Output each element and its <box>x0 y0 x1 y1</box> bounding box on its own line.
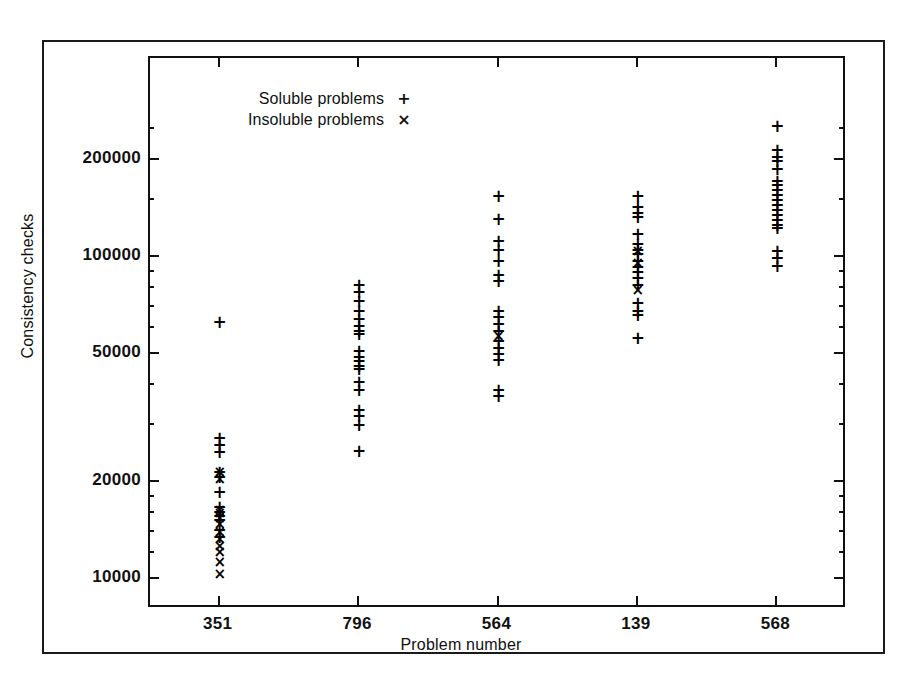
y-minor-tick-right <box>839 495 845 497</box>
data-point-soluble: + <box>352 382 366 399</box>
y-tick-label-50000: 50000 <box>92 342 141 362</box>
y-minor-tick <box>148 127 154 129</box>
data-point-soluble: + <box>491 211 505 228</box>
plot-surface: ++++++++++++++++++++++++++++++++++++++++… <box>150 58 843 605</box>
x-tick-796 <box>357 596 359 607</box>
y-tick-right-200000 <box>834 158 845 160</box>
data-point-soluble: + <box>352 442 366 459</box>
data-point-soluble: + <box>770 257 784 274</box>
data-point-insoluble: × <box>632 255 645 270</box>
y-minor-tick-right <box>839 270 845 272</box>
data-point-soluble: + <box>491 187 505 204</box>
y-tick-right-10000 <box>834 577 845 579</box>
data-point-insoluble: × <box>632 282 645 297</box>
y-minor-tick-right <box>839 511 845 513</box>
y-axis-title: Consistency checks <box>19 136 37 436</box>
x-tick-label-564: 564 <box>482 614 511 634</box>
x-tick-label-351: 351 <box>203 614 232 634</box>
y-minor-tick-right <box>839 326 845 328</box>
y-minor-tick <box>148 423 154 425</box>
y-minor-tick <box>148 551 154 553</box>
y-minor-tick <box>148 198 154 200</box>
y-minor-tick <box>148 286 154 288</box>
data-point-soluble: + <box>770 118 784 135</box>
data-point-insoluble: × <box>213 471 226 486</box>
x-tick-568 <box>775 596 777 607</box>
x-tick-label-139: 139 <box>621 614 650 634</box>
y-tick-20000 <box>148 480 159 482</box>
data-point-soluble: + <box>352 417 366 434</box>
x-tick-top-568 <box>775 56 777 67</box>
y-tick-right-20000 <box>834 480 845 482</box>
y-minor-tick <box>148 326 154 328</box>
x-tick-top-564 <box>497 56 499 67</box>
x-tick-351 <box>218 596 220 607</box>
data-point-soluble: + <box>213 443 227 460</box>
y-minor-tick <box>148 305 154 307</box>
chart-page: ++++++++++++++++++++++++++++++++++++++++… <box>0 0 922 693</box>
data-point-soluble: + <box>491 351 505 368</box>
y-minor-tick-right <box>839 198 845 200</box>
x-tick-top-351 <box>218 56 220 67</box>
y-minor-tick-right <box>839 286 845 288</box>
y-minor-tick <box>148 530 154 532</box>
x-tick-top-796 <box>357 56 359 67</box>
y-minor-tick-right <box>839 305 845 307</box>
legend-label-soluble: Soluble problems <box>216 90 384 108</box>
data-point-soluble: + <box>213 313 227 330</box>
data-point-insoluble: × <box>492 328 505 343</box>
y-minor-tick <box>148 495 154 497</box>
y-tick-100000 <box>148 255 159 257</box>
y-tick-label-100000: 100000 <box>82 245 141 265</box>
x-tick-label-796: 796 <box>342 614 371 634</box>
data-point-soluble: + <box>631 330 645 347</box>
y-tick-50000 <box>148 352 159 354</box>
y-minor-tick <box>148 383 154 385</box>
x-tick-label-568: 568 <box>761 614 790 634</box>
y-minor-tick-right <box>839 530 845 532</box>
legend-label-insoluble: Insoluble problems <box>216 111 384 129</box>
y-minor-tick-right <box>839 127 845 129</box>
data-point-soluble: + <box>770 219 784 236</box>
y-minor-tick-right <box>839 551 845 553</box>
x-tick-564 <box>497 596 499 607</box>
x-tick-139 <box>636 596 638 607</box>
data-point-soluble: + <box>631 307 645 324</box>
y-tick-right-50000 <box>834 352 845 354</box>
y-minor-tick-right <box>839 383 845 385</box>
y-tick-200000 <box>148 158 159 160</box>
legend-item-soluble: Soluble problems + <box>216 88 424 109</box>
legend-item-insoluble: Insoluble problems × <box>216 109 424 130</box>
y-tick-right-100000 <box>834 255 845 257</box>
y-minor-tick <box>148 270 154 272</box>
y-tick-10000 <box>148 577 159 579</box>
y-minor-tick <box>148 511 154 513</box>
plus-marker-icon: + <box>384 89 424 108</box>
plot-frame: ++++++++++++++++++++++++++++++++++++++++… <box>148 56 845 607</box>
x-axis-title: Problem number <box>0 636 922 654</box>
data-point-soluble: + <box>491 273 505 290</box>
data-point-soluble: + <box>491 388 505 405</box>
y-tick-label-200000: 200000 <box>82 148 141 168</box>
y-minor-tick-right <box>839 423 845 425</box>
y-tick-label-20000: 20000 <box>92 470 141 490</box>
cross-marker-icon: × <box>384 110 424 129</box>
data-point-insoluble: × <box>213 566 226 581</box>
y-tick-label-10000: 10000 <box>92 567 141 587</box>
legend: Soluble problems + Insoluble problems × <box>216 88 424 130</box>
x-tick-top-139 <box>636 56 638 67</box>
